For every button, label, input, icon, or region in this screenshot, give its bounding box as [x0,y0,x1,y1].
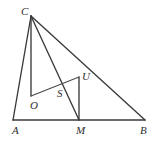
vertex-label-S: S [57,88,63,99]
vertex-label-U: U [82,71,90,82]
segment-CB [31,16,145,120]
vertex-label-O: O [30,100,38,111]
segment-OU [31,77,79,96]
vertex-label-M: M [76,125,85,136]
segment-AC [13,16,31,120]
vertex-label-C: C [21,6,28,17]
vertex-label-B: B [140,125,147,136]
segment-CM [31,16,79,120]
vertex-label-A: A [12,125,19,136]
geometry-figure: C U S O A M B [0,0,159,151]
